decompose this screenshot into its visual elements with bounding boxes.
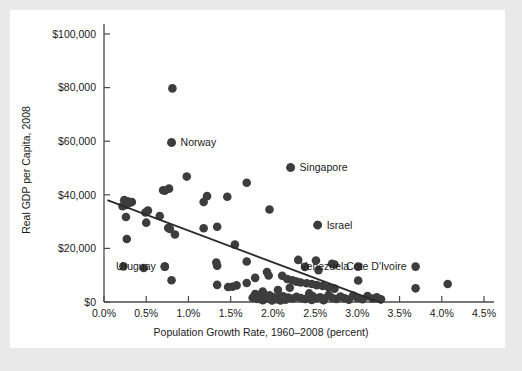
point-label: Singapore [300,161,348,173]
point-label: Uruguay [116,260,156,272]
annotated-point [313,221,322,230]
data-point [223,192,232,201]
figure-panel: $0$20,000$40,000$60,000$80,000$100,000 0… [10,10,505,348]
data-point [213,262,222,271]
x-tick-label: 0.5% [134,307,158,319]
x-tick-label: 1.5% [219,307,243,319]
data-point [213,222,222,231]
x-tick-label: 2.0% [261,307,285,319]
y-axis-ticks: $0$20,000$40,000$60,000$80,000$100,000 [52,28,110,308]
data-point [161,186,170,195]
data-point [167,276,176,285]
point-label: Israel [327,219,353,231]
y-tick-label: $100,000 [52,28,96,40]
trend-line [107,200,381,303]
y-tick-label: $20,000 [58,242,96,254]
point-label: Venezuela [300,260,349,272]
data-point [443,280,452,289]
data-point [242,257,251,266]
annotated-point [286,163,295,172]
x-tick-label: 0.0% [92,307,116,319]
x-tick-label: 4.0% [430,307,454,319]
screenshot-root: $0$20,000$40,000$60,000$80,000$100,000 0… [0,0,522,371]
y-tick-label: $0 [84,296,96,308]
data-point [251,274,260,283]
data-point [411,284,420,293]
data-point [281,295,290,304]
data-point [199,224,208,233]
x-tick-label: 1.0% [176,307,200,319]
data-point [264,271,273,280]
annotated-point [161,262,170,271]
data-point [168,84,177,93]
annotated-point [411,262,420,271]
data-point [242,279,251,288]
x-tick-label: 3.0% [345,307,369,319]
scatter-plot-svg: $0$20,000$40,000$60,000$80,000$100,000 0… [10,10,505,348]
data-point [285,283,294,292]
x-tick-label: 3.5% [388,307,412,319]
annotated-point [167,138,176,147]
data-point [142,218,151,227]
regression-line [107,200,381,303]
data-point [199,198,208,207]
data-point [232,281,241,290]
x-tick-label: 2.5% [303,307,327,319]
data-point [122,213,131,222]
data-point [242,178,251,187]
scatter-chart: $0$20,000$40,000$60,000$80,000$100,000 0… [10,10,505,348]
y-tick-label: $60,000 [58,135,96,147]
data-point [213,281,222,290]
data-point [307,296,316,305]
data-point [171,230,180,239]
x-tick-label: 4.5% [472,307,496,319]
y-tick-label: $80,000 [58,81,96,93]
point-annotations: NorwaySingaporeIsraelUruguayVenezuelaCot… [116,136,420,272]
x-axis-title: Population Growth Rate, 1960–2008 (perce… [154,326,369,338]
data-point [123,235,132,244]
y-tick-label: $40,000 [58,189,96,201]
data-point [354,276,363,285]
data-point [265,205,274,214]
data-point [182,172,191,181]
point-label: Cote D'Ivoire [346,260,407,272]
data-point [319,296,328,305]
point-label: Norway [181,136,217,148]
y-axis-title: Real GDP per Capita, 2008 [20,106,32,234]
